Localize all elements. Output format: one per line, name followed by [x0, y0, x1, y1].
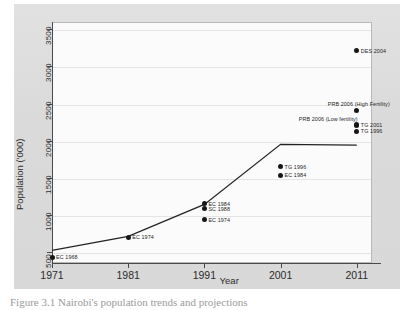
data-point-label: PRB 2006 (High Fertility) — [328, 101, 390, 107]
data-point-label: TG 1996 — [361, 128, 383, 134]
data-point-marker — [50, 255, 55, 260]
figure-caption: Figure 3.1 Nairobi's population trends a… — [10, 296, 248, 309]
data-point-marker — [354, 129, 359, 134]
data-point-marker — [354, 108, 359, 113]
population-trend-line — [0, 0, 403, 310]
data-point-marker — [126, 235, 131, 240]
data-point-label: EC 1974 — [208, 217, 230, 223]
data-point-label: PRB 2006 (Low fertility) — [299, 116, 358, 122]
data-point-label: TG 1996 — [285, 164, 307, 170]
data-point-label: DES 2004 — [361, 48, 386, 54]
data-point-label: EC 1968 — [56, 254, 78, 260]
data-point-label: EC 1984 — [285, 172, 307, 178]
data-point-label: EC 1974 — [132, 234, 154, 240]
data-point-marker — [354, 123, 359, 128]
data-point-label: SC 1988 — [208, 206, 230, 212]
figure-container: 500100015002000250030003500 197119811991… — [0, 0, 403, 310]
trend-line-path — [52, 144, 357, 250]
